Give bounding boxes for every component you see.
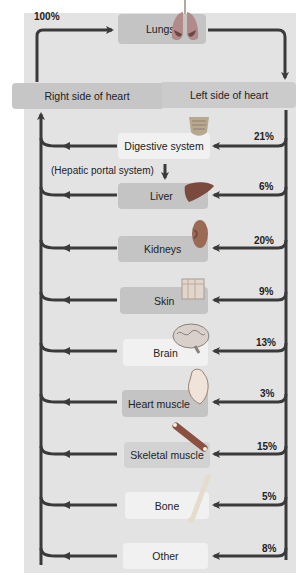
organ-percent: 9%: [259, 286, 273, 297]
hepatic-portal-note: (Hepatic portal system): [51, 165, 154, 176]
organ-label: Liver: [150, 190, 173, 202]
organ-percent: 6%: [259, 181, 273, 192]
muscle-icon: [172, 422, 208, 452]
left-heart-label: Left side of heart: [190, 89, 268, 101]
brain-icon: [171, 322, 211, 354]
bone-icon: [186, 474, 214, 524]
organ-label: Other: [152, 550, 178, 562]
organ-label: Digestive system: [124, 140, 203, 152]
right-heart-box: Right side of heart: [12, 83, 162, 109]
organ-box-other: Other: [123, 543, 208, 569]
organ-percent: 5%: [262, 491, 276, 502]
liver-icon: [183, 180, 215, 204]
organ-percent: 13%: [256, 337, 276, 348]
organ-percent: 8%: [262, 543, 276, 554]
left-heart-box: Left side of heart: [162, 82, 296, 108]
organ-percent: 3%: [260, 388, 274, 399]
organ-label: Skin: [154, 295, 174, 307]
heart-icon: [186, 368, 210, 406]
right-heart-label: Right side of heart: [44, 90, 129, 102]
total-percent: 100%: [34, 11, 60, 22]
intestine-icon: [187, 114, 211, 138]
organ-label: Bone: [155, 500, 180, 512]
skin-icon: [180, 275, 208, 303]
organ-percent: 15%: [257, 441, 277, 452]
lungs-icon: [168, 0, 202, 44]
organ-label: Heart muscle: [128, 398, 190, 410]
organ-percent: 21%: [254, 131, 274, 142]
organ-percent: 20%: [254, 235, 274, 246]
kidney-icon: [190, 218, 210, 250]
organ-label: Kidneys: [144, 243, 181, 255]
